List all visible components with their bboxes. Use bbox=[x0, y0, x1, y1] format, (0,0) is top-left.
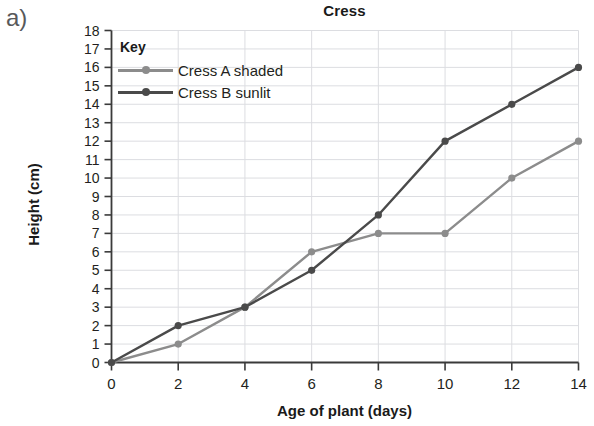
legend-label-cress-b: Cress B sunlit bbox=[178, 85, 271, 100]
y-tick-label: 6 bbox=[92, 244, 100, 260]
x-tick-label: 8 bbox=[374, 375, 382, 392]
y-tick-label: 13 bbox=[84, 115, 100, 131]
y-tick-label: 8 bbox=[92, 207, 100, 223]
legend-marker-icon bbox=[142, 66, 150, 74]
y-tick-label: 15 bbox=[84, 78, 100, 94]
data-point bbox=[108, 359, 115, 366]
x-tick-label: 0 bbox=[107, 375, 115, 392]
legend-title: Key bbox=[120, 40, 283, 54]
legend-item-cress-b: Cress B sunlit bbox=[118, 81, 283, 103]
figure-container: a) Cress Height (cm) Age of plant (days)… bbox=[0, 0, 594, 426]
data-point bbox=[575, 64, 582, 71]
data-point bbox=[508, 174, 515, 181]
y-tick-label: 18 bbox=[84, 23, 100, 39]
x-tick-label: 2 bbox=[174, 375, 182, 392]
data-point bbox=[175, 322, 182, 329]
legend-swatch-cress-b bbox=[118, 85, 173, 99]
data-point bbox=[308, 267, 315, 274]
x-tick-label: 14 bbox=[570, 375, 587, 392]
data-point bbox=[308, 248, 315, 255]
y-tick-label: 9 bbox=[92, 189, 100, 205]
y-tick-label: 5 bbox=[92, 262, 100, 278]
legend-label-cress-a: Cress A shaded bbox=[178, 63, 283, 78]
y-tick-label: 11 bbox=[85, 152, 100, 168]
data-point bbox=[508, 101, 515, 108]
data-point bbox=[441, 138, 448, 145]
legend-swatch-cress-a bbox=[118, 63, 173, 77]
y-tick-label: 16 bbox=[84, 59, 100, 75]
chart-legend: Key Cress A shaded Cress B sunlit bbox=[118, 40, 283, 103]
y-axis-tick-labels: 0123456789101112131415161718 bbox=[84, 23, 100, 371]
data-point bbox=[241, 304, 248, 311]
y-axis-ticks bbox=[105, 31, 112, 363]
x-tick-label: 12 bbox=[503, 375, 520, 392]
data-point bbox=[375, 230, 382, 237]
x-tick-label: 6 bbox=[307, 375, 315, 392]
y-tick-label: 4 bbox=[92, 281, 100, 297]
y-tick-label: 0 bbox=[92, 355, 100, 371]
data-point bbox=[441, 230, 448, 237]
data-point bbox=[175, 340, 182, 347]
y-tick-label: 7 bbox=[92, 225, 100, 241]
y-tick-label: 12 bbox=[84, 133, 100, 149]
x-axis-ticks bbox=[112, 363, 579, 371]
y-tick-label: 14 bbox=[84, 96, 100, 112]
y-tick-label: 3 bbox=[92, 299, 100, 315]
y-tick-label: 10 bbox=[84, 170, 100, 186]
x-axis-tick-labels: 02468101214 bbox=[107, 375, 587, 392]
x-tick-label: 4 bbox=[241, 375, 249, 392]
line-chart-plot: 0123456789101112131415161718 02468101214 bbox=[0, 0, 594, 426]
data-point bbox=[375, 211, 382, 218]
data-point bbox=[575, 138, 582, 145]
x-tick-label: 10 bbox=[437, 375, 454, 392]
y-tick-label: 1 bbox=[92, 336, 100, 352]
legend-marker-icon bbox=[142, 88, 150, 96]
y-tick-label: 2 bbox=[92, 318, 100, 334]
y-tick-label: 17 bbox=[84, 41, 100, 57]
legend-item-cress-a: Cress A shaded bbox=[118, 59, 283, 81]
